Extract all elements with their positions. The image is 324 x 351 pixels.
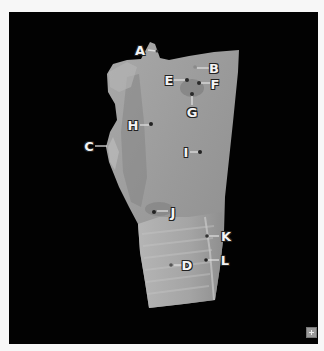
marker-label-l: L xyxy=(221,254,229,267)
marker-label-h: H xyxy=(128,119,139,132)
marker-label-g: G xyxy=(187,106,198,119)
marker-label-d: D xyxy=(182,259,193,272)
marker-label-b: B xyxy=(209,62,219,75)
marker-label-f: F xyxy=(211,78,220,91)
expand-icon[interactable] xyxy=(306,327,317,338)
marker-label-c: C xyxy=(84,140,94,153)
marker-label-k: K xyxy=(221,230,231,243)
specimen-photo xyxy=(9,12,318,344)
marker-label-a: A xyxy=(135,44,145,57)
image-panel: A B C D E F G H I J K L xyxy=(9,12,318,344)
marker-label-j: J xyxy=(171,206,176,219)
marker-label-i: I xyxy=(184,146,189,159)
marker-label-e: E xyxy=(165,74,174,87)
